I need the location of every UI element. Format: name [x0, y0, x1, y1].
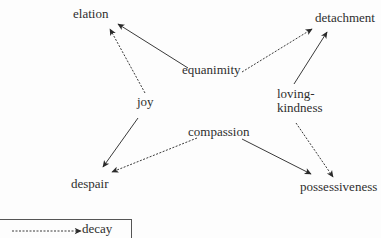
node-compassion: compassion	[188, 125, 249, 139]
legend-dashed-arrow-icon	[10, 223, 92, 238]
node-joy: joy	[137, 95, 154, 109]
edge-joy-elation	[110, 29, 145, 93]
node-loving-kindness-line2: kindness	[277, 101, 323, 115]
legend-label-decay: decay	[82, 221, 112, 237]
edge-compassion-possessiveness	[242, 139, 311, 174]
edge-equanimity-elation	[118, 24, 188, 68]
node-detachment: detachment	[315, 11, 375, 25]
node-loving-kindness-line1: loving-	[277, 87, 323, 101]
edge-compassion-despair	[112, 138, 197, 172]
node-equanimity: equanimity	[182, 63, 241, 77]
legend-box: decay	[0, 219, 132, 238]
diagram-edges	[0, 0, 381, 238]
edge-equanimity-detachment	[242, 29, 312, 72]
edge-joy-despair	[103, 118, 138, 167]
node-possessiveness: possessiveness	[300, 180, 377, 194]
edge-lovingkindness-detachment	[294, 32, 327, 84]
node-elation: elation	[73, 7, 108, 21]
node-loving-kindness: loving- kindness	[277, 87, 323, 115]
node-despair: despair	[71, 177, 109, 191]
